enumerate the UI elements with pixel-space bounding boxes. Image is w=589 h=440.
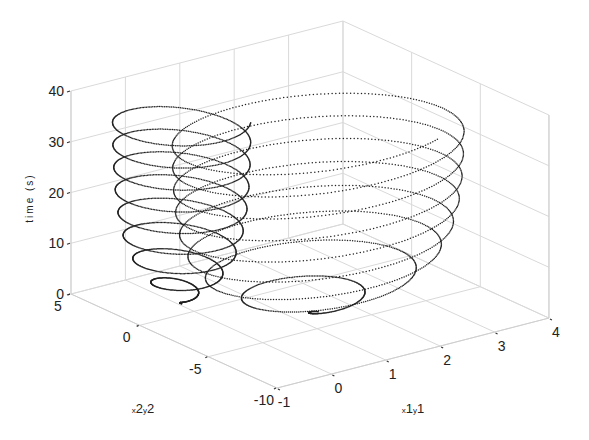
data-point — [426, 166, 428, 168]
data-point — [157, 106, 159, 108]
data-point — [190, 200, 192, 202]
data-point — [206, 273, 208, 275]
data-point — [430, 125, 432, 127]
data-point — [433, 184, 435, 186]
data-point — [272, 99, 274, 101]
data-point — [159, 106, 161, 108]
data-point — [215, 160, 217, 162]
data-point — [185, 224, 187, 226]
data-point — [332, 213, 334, 215]
data-point — [178, 145, 180, 147]
data-point — [204, 237, 206, 239]
data-point — [221, 203, 223, 205]
data-point — [308, 194, 310, 196]
data-point — [369, 185, 371, 187]
data-point — [276, 98, 278, 100]
data-point — [446, 235, 448, 237]
data-point — [181, 175, 183, 177]
data-point — [230, 153, 232, 155]
data-point — [168, 145, 170, 147]
data-point — [189, 176, 191, 178]
data-point — [183, 233, 185, 235]
data-point — [329, 210, 331, 212]
data-point — [420, 169, 422, 171]
data-point — [331, 93, 333, 95]
data-point — [199, 178, 201, 180]
data-point — [352, 304, 354, 306]
data-point — [188, 206, 190, 208]
data-point — [148, 142, 150, 144]
data-point — [161, 174, 163, 176]
data-point — [180, 158, 182, 160]
data-point — [320, 239, 322, 241]
data-point — [350, 305, 352, 307]
data-point — [426, 225, 428, 227]
data-point — [369, 270, 371, 272]
data-point — [384, 283, 386, 285]
data-point — [313, 139, 315, 141]
data-point — [213, 170, 215, 172]
data-point — [330, 161, 332, 163]
data-point — [258, 101, 260, 103]
data-point — [228, 165, 230, 167]
data-point — [415, 235, 417, 237]
data-point — [137, 205, 139, 207]
data-point — [396, 248, 398, 250]
data-point — [162, 222, 164, 224]
data-point — [180, 199, 182, 201]
data-point — [188, 125, 190, 127]
data-point — [222, 141, 224, 143]
data-point — [225, 140, 227, 142]
data-point — [225, 206, 227, 208]
data-point — [167, 198, 169, 200]
data-point — [216, 183, 218, 185]
data-point — [401, 216, 403, 218]
data-point — [218, 115, 220, 117]
data-point — [290, 213, 292, 215]
data-point — [366, 229, 368, 231]
data-point — [216, 157, 218, 159]
data-point — [429, 227, 431, 229]
data-point — [450, 183, 452, 185]
data-point — [274, 121, 276, 123]
data-point — [320, 93, 322, 95]
data-point — [204, 212, 206, 214]
data-point — [423, 251, 425, 253]
data-point — [433, 206, 435, 208]
data-point — [462, 136, 464, 138]
data-point — [248, 196, 250, 198]
data-point — [250, 281, 252, 283]
data-point — [193, 167, 195, 169]
data-point — [454, 191, 456, 193]
data-point — [262, 100, 264, 102]
data-point — [135, 205, 137, 207]
data-point — [168, 232, 170, 234]
data-point — [184, 224, 186, 226]
data-point — [382, 94, 384, 96]
data-point — [405, 152, 407, 154]
data-point — [227, 139, 229, 141]
data-point — [259, 218, 261, 220]
data-point — [399, 249, 401, 251]
data-point — [426, 210, 428, 212]
data-point — [395, 243, 397, 245]
data-point — [429, 172, 431, 174]
data-point — [201, 227, 203, 229]
data-point — [368, 138, 370, 140]
data-point — [269, 191, 271, 193]
data-point — [345, 305, 347, 307]
data-point — [147, 106, 149, 108]
data-point — [279, 278, 281, 280]
data-point — [426, 188, 428, 190]
data-point — [361, 93, 363, 95]
data-point — [406, 143, 408, 145]
data-point — [160, 128, 162, 130]
data-point — [276, 279, 278, 281]
data-point — [387, 117, 389, 119]
data-point — [438, 106, 440, 108]
series-1 — [171, 93, 464, 315]
data-point — [191, 192, 193, 194]
data-point — [360, 211, 362, 213]
data-point — [400, 142, 402, 144]
data-point — [170, 167, 172, 169]
